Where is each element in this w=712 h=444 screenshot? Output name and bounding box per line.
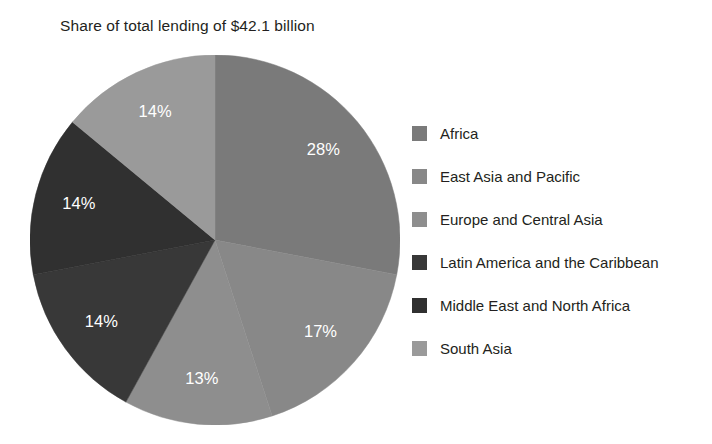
legend-item[interactable]: Africa bbox=[412, 112, 702, 155]
legend-color-swatch bbox=[412, 169, 427, 184]
pie-slice-label: 13% bbox=[185, 369, 218, 387]
legend-item-label: Europe and Central Asia bbox=[440, 212, 603, 227]
pie-slice[interactable] bbox=[215, 55, 400, 275]
pie-chart-figure: Share of total lending of $42.1 billion … bbox=[0, 0, 712, 444]
pie-slice-label: 14% bbox=[62, 194, 95, 212]
legend-color-swatch bbox=[412, 212, 427, 227]
legend-item-label: Middle East and North Africa bbox=[440, 298, 630, 313]
chart-legend: AfricaEast Asia and PacificEurope and Ce… bbox=[412, 112, 702, 370]
pie-slice-label: 14% bbox=[139, 102, 172, 120]
legend-color-swatch bbox=[412, 298, 427, 313]
chart-title: Share of total lending of $42.1 billion bbox=[60, 17, 315, 35]
legend-item[interactable]: East Asia and Pacific bbox=[412, 155, 702, 198]
legend-item-label: South Asia bbox=[440, 341, 512, 356]
legend-item[interactable]: South Asia bbox=[412, 327, 702, 370]
legend-color-swatch bbox=[412, 341, 427, 356]
legend-item-label: East Asia and Pacific bbox=[440, 169, 580, 184]
pie-slice-label: 17% bbox=[304, 322, 337, 340]
legend-item-label: Latin America and the Caribbean bbox=[440, 255, 658, 270]
pie-plot-area: 28%17%13%14%14%14% bbox=[30, 55, 400, 425]
legend-color-swatch bbox=[412, 126, 427, 141]
pie-slice-label: 14% bbox=[85, 312, 118, 330]
legend-item[interactable]: Europe and Central Asia bbox=[412, 198, 702, 241]
legend-color-swatch bbox=[412, 255, 427, 270]
pie-slice-label: 28% bbox=[307, 140, 340, 158]
legend-item[interactable]: Latin America and the Caribbean bbox=[412, 241, 702, 284]
legend-item[interactable]: Middle East and North Africa bbox=[412, 284, 702, 327]
pie-svg: 28%17%13%14%14%14% bbox=[30, 55, 400, 425]
legend-item-label: Africa bbox=[440, 126, 478, 141]
